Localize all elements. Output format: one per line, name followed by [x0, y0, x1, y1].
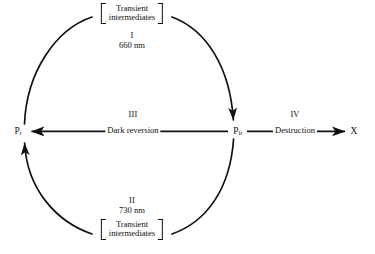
bottom-bracket-group: Transient intermediates: [101, 219, 163, 240]
step-iv-roman: IV: [290, 110, 299, 119]
step-i-wavelength: 660 nm: [119, 41, 145, 50]
bracket-close-icon: [158, 219, 163, 240]
dark-reversion-label: Dark reversion: [105, 127, 160, 136]
arc-pfr-to-bottom-intermediates: [172, 139, 234, 234]
bottom-transient-intermediates-group: Transient intermediates: [101, 219, 163, 243]
arc-top-intermediates-to-pfr: [172, 17, 233, 120]
top-bracket-text: Transient intermediates: [106, 3, 158, 24]
step-iii-roman: III: [129, 110, 138, 119]
bottom-bracket-line2: intermediates: [109, 229, 155, 238]
arc-pr-to-top-intermediates: [25, 17, 93, 124]
bracket-close-icon: [158, 3, 163, 24]
node-pr: Pr: [14, 126, 21, 137]
step-ii-wavelength: 730 nm: [119, 206, 145, 215]
node-pr-subscript: r: [20, 130, 22, 136]
top-transient-intermediates-group: Transient intermediates: [101, 3, 163, 27]
node-x: X: [351, 126, 358, 136]
step-ii-roman: II: [129, 196, 135, 205]
node-pfr: Pfr: [233, 126, 242, 137]
top-bracket-group: Transient intermediates: [101, 3, 163, 24]
destruction-label: Destruction: [273, 127, 317, 136]
diagram-canvas: Transient intermediates I 660 nm II 730 …: [0, 0, 375, 254]
arc-bottom-intermediates-to-pr: [25, 143, 92, 234]
node-pfr-subscript: fr: [239, 130, 243, 136]
top-bracket-line2: intermediates: [109, 13, 155, 22]
step-i-roman: I: [131, 31, 134, 40]
bottom-bracket-text: Transient intermediates: [106, 219, 158, 240]
cycle-arrows-svg: [0, 0, 375, 254]
